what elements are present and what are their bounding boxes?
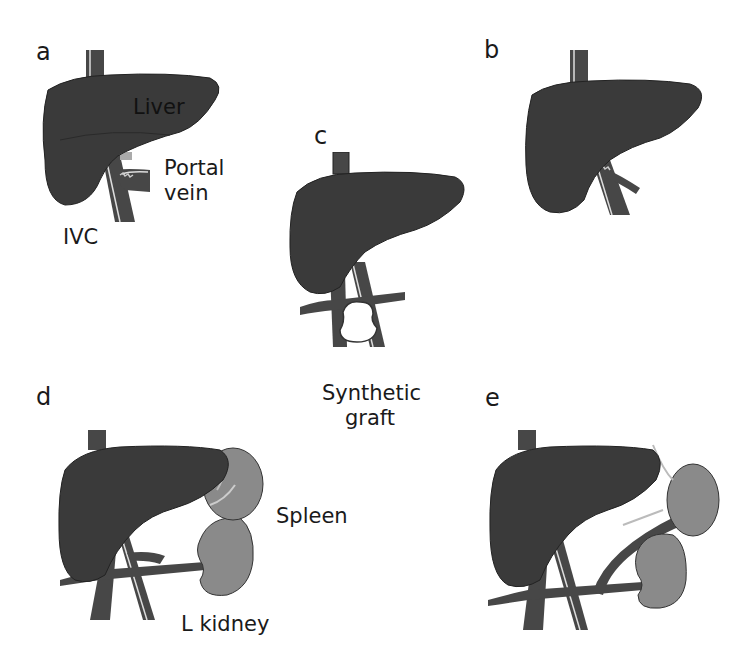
panel-label-e: e <box>485 386 500 410</box>
panel-label-b: b <box>484 38 499 62</box>
synthetic-graft-label-line2: graft <box>345 408 395 429</box>
kidney-e <box>636 534 687 608</box>
panel-a-diagram <box>30 40 230 240</box>
synthetic-graft-shape <box>340 302 377 342</box>
portal-vein-label-line2: vein <box>164 183 209 204</box>
panel-b-diagram <box>520 50 720 215</box>
panel-label-d: d <box>36 385 51 409</box>
panel-label-c: c <box>314 124 327 148</box>
spleen-label: Spleen <box>276 506 348 527</box>
kidney-label: L kidney <box>181 614 269 635</box>
synthetic-graft-label-line1: Synthetic <box>322 383 421 404</box>
portal-vein-vessel <box>118 152 150 192</box>
panel-c-diagram <box>285 152 475 347</box>
ivc-label: IVC <box>63 227 98 248</box>
kidney <box>198 518 254 596</box>
liver-shape-c <box>290 172 464 294</box>
panel-e-diagram <box>488 430 728 630</box>
liver-shape-e <box>490 446 660 587</box>
liver-label: Liver <box>133 97 185 118</box>
portal-vein-label-line1: Portal <box>164 158 224 179</box>
panel-d-diagram <box>55 430 275 620</box>
spleen-e <box>667 464 719 536</box>
